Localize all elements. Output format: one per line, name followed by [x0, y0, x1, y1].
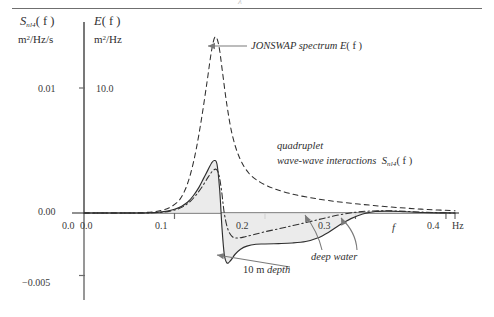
deepwater-annotation-line1: deep water — [311, 251, 357, 263]
right-axis-unit: m2/Hz — [94, 33, 122, 45]
figure-container: λ Snl4( f ) m2/Hz/s E( f ) m2/Hz 0.01 0.… — [0, 0, 494, 317]
left-axis-title: Snl4( f ) — [20, 14, 55, 29]
right-axis-title: E( f ) — [94, 14, 120, 28]
right-tick-0.0: 0.0 — [80, 220, 93, 231]
x-axis-symbol: f — [392, 221, 395, 233]
jonswap-annotation: JONSWAP spectrum E( f ) — [251, 40, 362, 52]
left-tick-minus0.005: −0.005 — [22, 277, 50, 288]
curve-jonswap-spectrum-e-f- — [84, 37, 455, 213]
curve-10-m-depth — [84, 160, 455, 263]
right-tick-10.0: 10.0 — [96, 83, 114, 94]
x-axis-unit: Hz — [452, 220, 464, 231]
left-tick-0.01: 0.01 — [38, 83, 56, 94]
left-tick-0.00: 0.00 — [38, 206, 56, 217]
depth-annotation: 10 m depth — [243, 264, 290, 276]
x-tick-0.1: 0.1 — [155, 220, 168, 231]
x-tick-0.0: 0.0 — [62, 220, 75, 231]
quadruplet-annotation-line2: wave-wave interactions Snl4( f ) — [277, 155, 412, 168]
quadruplet-annotation-line1: quadruplet — [277, 140, 323, 152]
depth-arrowhead — [217, 253, 224, 259]
x-tick-0.3: 0.3 — [318, 220, 331, 231]
x-tick-0.4: 0.4 — [427, 220, 440, 231]
left-axis-unit: m2/Hz/s — [18, 33, 53, 45]
x-tick-0.2: 0.2 — [236, 220, 249, 231]
